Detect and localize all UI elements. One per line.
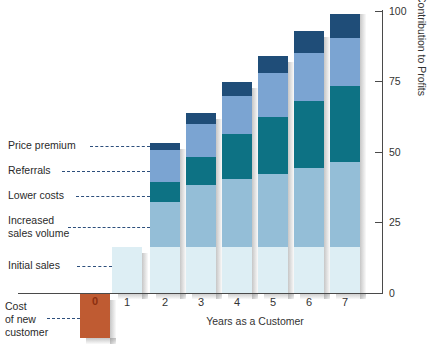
y-tick-label-50: 50 [389, 146, 401, 158]
x-tick-label-6: 6 [294, 296, 324, 308]
segment-price-premium [330, 14, 360, 38]
segment-lower-costs [294, 101, 324, 168]
bar-year-6 [294, 31, 324, 293]
x-tick-label-2: 2 [150, 296, 180, 308]
y-axis-title: Contribution to Profits [416, 0, 427, 96]
segment-increased-sales [258, 174, 288, 247]
leader-dash-price-premium [90, 146, 150, 147]
plot-area: 100 75 50 25 0 Contribution to Profits [0, 0, 427, 355]
segment-price-premium [258, 56, 288, 73]
bar-year-7 [330, 8, 360, 293]
y-tick-label-0: 0 [389, 287, 395, 299]
y-tick-label-75: 75 [389, 75, 401, 87]
segment-initial-sales [150, 247, 180, 293]
segment-price-premium [150, 143, 180, 150]
cost-bar-shadow-bottom [86, 338, 116, 344]
segment-initial-sales [186, 247, 216, 293]
y-tick-mark-75 [375, 81, 383, 82]
leader-dash-lower-costs [76, 196, 150, 197]
segment-increased-sales [150, 202, 180, 247]
segment-lower-costs [330, 86, 360, 162]
segment-lower-costs [150, 182, 180, 202]
x-tick-label-1: 1 [112, 296, 142, 308]
segment-referrals [258, 73, 288, 117]
segment-referrals [186, 124, 216, 157]
segment-increased-sales [294, 168, 324, 247]
segment-initial-sales [294, 247, 324, 293]
leader-dash-cost-of-new-customer [47, 318, 80, 319]
x-tick-label-5: 5 [258, 296, 288, 308]
legend-label-initial-sales: Initial sales [8, 260, 60, 272]
bar-year-4 [222, 82, 252, 293]
x-axis-title: Years as a Customer [170, 315, 340, 327]
bar-year-5 [258, 56, 288, 293]
segment-lower-costs [258, 117, 288, 174]
segment-lower-costs [222, 134, 252, 179]
y-tick-label-25: 25 [389, 216, 401, 228]
segment-initial-sales [258, 247, 288, 293]
legend-label-cost-of-new-customer-line1: Cost [5, 301, 27, 313]
chart-container: 100 75 50 25 0 Contribution to Profits [0, 0, 427, 355]
segment-referrals [150, 150, 180, 182]
segment-lower-costs [186, 157, 216, 185]
segment-price-premium [294, 31, 324, 53]
bar-year-1 [112, 247, 142, 293]
segment-referrals [222, 96, 252, 134]
x-tick-label-3: 3 [186, 296, 216, 308]
bar-shadow [360, 14, 366, 299]
bar-year-3 [186, 113, 216, 293]
y-tick-mark-100 [375, 11, 383, 12]
x-tick-label-4: 4 [222, 296, 252, 308]
legend-label-increased-sales-volume-line2: sales volume [8, 228, 69, 240]
x-axis-line [18, 293, 383, 294]
leader-dash-initial-sales [77, 266, 112, 267]
segment-referrals [294, 53, 324, 101]
segment-price-premium [222, 82, 252, 96]
segment-initial-sales [222, 247, 252, 293]
segment-increased-sales [222, 179, 252, 247]
legend-label-referrals: Referrals [8, 165, 51, 177]
cost-bar-label: 0 [92, 295, 98, 307]
legend-label-lower-costs: Lower costs [8, 190, 64, 202]
segment-initial-sales [330, 247, 360, 293]
bar-year-0-cost-of-new-customer: 0 [80, 294, 110, 338]
x-tick-label-7: 7 [330, 296, 360, 308]
y-tick-mark-50 [375, 152, 383, 153]
legend-label-cost-of-new-customer-line3: customer [5, 327, 48, 339]
segment-increased-sales [330, 162, 360, 247]
segment-initial-sales [112, 247, 142, 293]
legend-label-cost-of-new-customer-line2: of new [5, 314, 36, 326]
leader-dash-referrals [62, 171, 150, 172]
segment-referrals [330, 38, 360, 86]
leader-dash-increased-sales-volume [68, 227, 150, 228]
bar-year-2 [150, 143, 180, 293]
legend-label-increased-sales-volume-line1: Increased [8, 215, 54, 227]
segment-increased-sales [186, 185, 216, 247]
segment-price-premium [186, 113, 216, 124]
legend-label-price-premium: Price premium [8, 140, 76, 152]
y-tick-mark-25 [375, 222, 383, 223]
y-tick-label-100: 100 [389, 5, 407, 17]
